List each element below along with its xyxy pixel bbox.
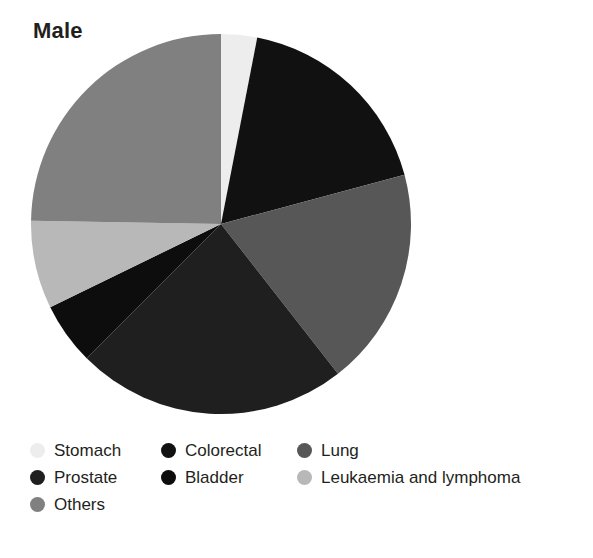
chart-legend: StomachColorectalLungProstateBladderLeuk… [30, 437, 590, 518]
pie-slice-group [31, 34, 411, 414]
legend-item[interactable]: Colorectal [161, 441, 297, 461]
legend-swatch-icon [30, 470, 45, 485]
legend-item-label: Stomach [54, 441, 121, 461]
legend-item-label: Colorectal [185, 441, 262, 461]
legend-swatch-icon [297, 443, 312, 458]
legend-item[interactable]: Prostate [30, 468, 161, 488]
pie-chart [30, 33, 412, 415]
legend-item[interactable]: Others [30, 495, 161, 515]
legend-row: Others [30, 491, 590, 518]
legend-row: ProstateBladderLeukaemia and lymphoma [30, 464, 590, 491]
legend-item-label: Leukaemia and lymphoma [321, 468, 520, 488]
pie-slice[interactable] [31, 34, 221, 224]
legend-item-label: Prostate [54, 468, 117, 488]
legend-row: StomachColorectalLung [30, 437, 590, 464]
legend-item[interactable]: Lung [297, 441, 359, 461]
legend-swatch-icon [161, 443, 176, 458]
legend-item[interactable]: Stomach [30, 441, 161, 461]
legend-item-label: Lung [321, 441, 359, 461]
legend-swatch-icon [297, 470, 312, 485]
legend-swatch-icon [161, 470, 176, 485]
pie-chart-svg [30, 33, 412, 415]
legend-item-label: Others [54, 495, 105, 515]
legend-item-label: Bladder [185, 468, 244, 488]
legend-item[interactable]: Leukaemia and lymphoma [297, 468, 520, 488]
legend-swatch-icon [30, 497, 45, 512]
legend-item[interactable]: Bladder [161, 468, 297, 488]
legend-swatch-icon [30, 443, 45, 458]
